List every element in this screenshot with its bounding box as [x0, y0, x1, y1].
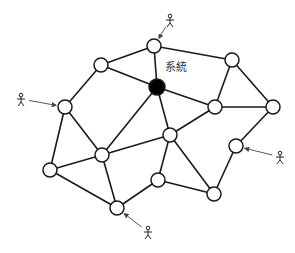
edge-sys-n5	[157, 87, 215, 107]
stick-figure-icon	[17, 93, 25, 106]
stick-figure-icon	[276, 151, 284, 164]
edge-n4-n10	[50, 107, 65, 170]
edge-n8-n12	[214, 146, 236, 194]
arrow-u3	[245, 148, 273, 155]
system-node	[149, 79, 165, 95]
edge-n2-n4	[65, 65, 101, 107]
node-n2	[94, 58, 108, 72]
node-n5	[208, 100, 222, 114]
edge-n6-n8	[236, 107, 273, 146]
edge-n4-n9	[65, 107, 102, 155]
node-n4	[58, 100, 72, 114]
edge-n9-n10	[50, 155, 102, 170]
node-n11	[151, 173, 165, 187]
edge-sys-n9	[102, 87, 157, 155]
node-n9	[95, 148, 109, 162]
stick-figure-icon	[166, 14, 174, 27]
arrow-u1	[159, 27, 166, 39]
edge-n10-n13	[50, 170, 117, 208]
node-n12	[207, 187, 221, 201]
arrow-u2	[29, 100, 56, 105]
node-n8	[229, 139, 243, 153]
node-n6	[266, 100, 280, 114]
node-n10	[43, 163, 57, 177]
stick-figure-icon	[144, 226, 152, 239]
system-label: 系統	[165, 60, 187, 74]
node-n3	[225, 53, 239, 67]
edge-n2-sys	[101, 65, 157, 87]
edge-n1-n3	[154, 46, 232, 60]
edge-n9-n7	[102, 135, 170, 155]
nodes-layer	[43, 39, 280, 215]
edge-n5-n7	[170, 107, 215, 135]
node-n7	[163, 128, 177, 142]
edge-n2-n1	[101, 46, 154, 65]
node-n1	[147, 39, 161, 53]
node-n13	[110, 201, 124, 215]
arrow-u4	[124, 214, 142, 228]
network-diagram: 系統	[0, 0, 295, 253]
edge-n3-n6	[232, 60, 273, 107]
